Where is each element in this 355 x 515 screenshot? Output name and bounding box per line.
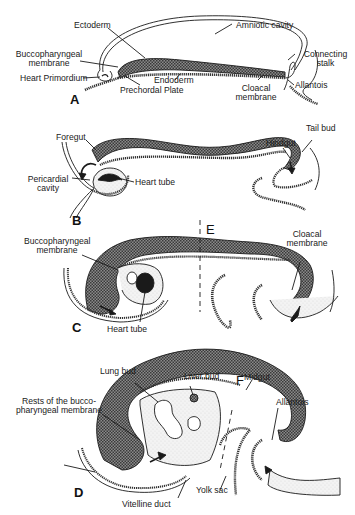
- panel-letter-a: A: [70, 92, 79, 107]
- label-prechordal-plate: Prechordal Plate: [120, 86, 184, 95]
- label-buccopharyngeal-membrane-a: Buccopharyngeal membrane: [14, 50, 84, 68]
- label-allantois-a: Allantois: [295, 81, 327, 90]
- label-rests-buccopharyngeal-membrane: Rests of the bucco-pharyngeal membrane: [14, 397, 104, 415]
- label-heart-tube-c: Heart tube: [107, 325, 147, 334]
- label-heart-tube-b: Heart tube: [135, 178, 175, 187]
- section-line-label-e: E: [206, 222, 215, 237]
- label-ectoderm: Ectoderm: [74, 21, 111, 30]
- panel-letter-b: B: [72, 213, 81, 228]
- label-yolk-sac: Yolk sac: [196, 486, 228, 495]
- label-buccopharyngeal-membrane-c: Buccopharyngeal membrane: [24, 237, 90, 255]
- embryo-folding-figure: Ectoderm Amniotic cavity Buccopharyngeal…: [0, 0, 355, 515]
- label-hindgut: Hindgut: [266, 139, 296, 148]
- label-heart-primordium: Heart Primordium: [20, 74, 87, 83]
- panel-b-artwork: [62, 138, 319, 218]
- section-line-label-f: F: [236, 373, 244, 388]
- label-vitelline-duct: Vitelline duct: [122, 500, 171, 509]
- label-endoderm: Endoderm: [154, 76, 194, 85]
- label-connecting-stalk: Connecting stalk: [298, 50, 353, 68]
- panel-letter-c: C: [72, 320, 81, 335]
- label-pericardial-cavity: Pericardial cavity: [22, 175, 74, 193]
- label-midgut: Midgut: [244, 373, 270, 382]
- label-foregut: Foregut: [56, 133, 86, 142]
- label-liver-bud: Liver bud: [184, 372, 219, 381]
- label-cloacal-membrane-c: Cloacal membrane: [282, 230, 332, 248]
- label-lung-bud: Lung bud: [100, 367, 136, 376]
- label-tail-bud: Tail bud: [306, 124, 336, 133]
- label-allantois-d: Allantois: [276, 398, 308, 407]
- label-cloacal-membrane-a: Cloacal membrane: [230, 84, 282, 102]
- label-amniotic-cavity: Amniotic cavity: [236, 21, 293, 30]
- panel-letter-d: D: [74, 485, 83, 500]
